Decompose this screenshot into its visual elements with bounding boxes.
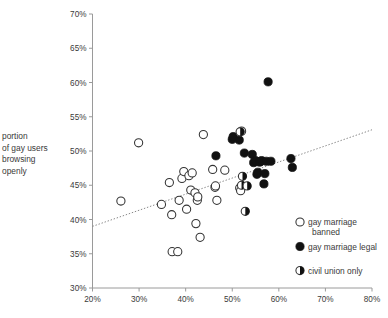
legend-label-half: civil union only xyxy=(308,266,363,276)
data-point-open xyxy=(175,196,183,204)
x-axis-tick-label: 30% xyxy=(131,295,147,304)
data-point-filled xyxy=(267,157,275,165)
data-point-filled xyxy=(261,170,269,178)
data-point-filled xyxy=(287,154,295,162)
data-point-filled xyxy=(288,163,296,171)
x-axis-tick-label: 60% xyxy=(271,295,287,304)
x-axis-tick-label: 20% xyxy=(84,295,100,304)
legend-marker-filled xyxy=(296,242,304,250)
data-point-open xyxy=(221,166,229,174)
legend-marker-open xyxy=(296,218,304,226)
data-point-open xyxy=(196,233,204,241)
x-axis-tick-label: 40% xyxy=(177,295,193,304)
data-point-filled xyxy=(264,78,272,86)
y-axis-label-line: openly xyxy=(2,166,27,176)
data-point-open xyxy=(209,165,217,173)
x-axis-tick-label: 70% xyxy=(317,295,333,304)
data-point-open xyxy=(188,169,196,177)
scatter-chart: 30%35%40%45%50%55%60%65%70%20%30%40%50%6… xyxy=(0,0,388,318)
data-point-open xyxy=(199,130,207,138)
legend-label-open: gay marriage xyxy=(308,217,357,227)
y-axis-tick-label: 45% xyxy=(70,181,86,190)
x-axis-tick-label: 80% xyxy=(364,295,380,304)
y-axis-label-line: portion xyxy=(2,131,28,141)
data-point-open xyxy=(165,178,173,186)
data-point-open xyxy=(135,139,143,147)
x-axis-tick-label: 50% xyxy=(224,295,240,304)
y-axis-tick-label: 50% xyxy=(70,147,86,156)
y-axis-label-line: browsing xyxy=(2,154,36,164)
data-point-open xyxy=(117,197,125,205)
data-point-open xyxy=(168,211,176,219)
data-point-filled xyxy=(260,180,268,188)
legend-label-filled: gay marriage legal xyxy=(308,242,377,252)
data-point-open xyxy=(192,220,200,228)
y-axis-tick-label: 40% xyxy=(70,216,86,225)
y-axis-tick-label: 35% xyxy=(70,250,86,259)
data-point-open xyxy=(211,182,219,190)
data-point-filled xyxy=(235,136,243,144)
data-point-open xyxy=(174,248,182,256)
data-point-filled xyxy=(240,149,248,157)
data-point-filled xyxy=(212,152,220,160)
y-axis-tick-label: 60% xyxy=(70,79,86,88)
chart-canvas: 30%35%40%45%50%55%60%65%70%20%30%40%50%6… xyxy=(0,0,388,318)
y-axis-tick-label: 30% xyxy=(70,284,86,293)
y-axis-label-line: of gay users xyxy=(2,143,48,153)
data-point-open xyxy=(157,200,165,208)
y-axis-tick-label: 55% xyxy=(70,113,86,122)
data-point-open xyxy=(213,196,221,204)
data-point-open xyxy=(194,193,202,201)
legend-label-open-line2: banned xyxy=(312,227,340,237)
y-axis-tick-label: 70% xyxy=(70,10,86,19)
data-point-open xyxy=(182,205,190,213)
y-axis-tick-label: 65% xyxy=(70,44,86,53)
